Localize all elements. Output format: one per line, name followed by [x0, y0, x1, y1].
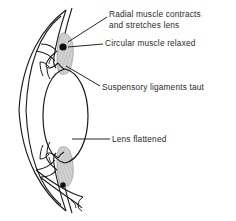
leader-circular: [68, 44, 103, 47]
leader-radial: [68, 17, 107, 42]
ciliary-muscle-top: [57, 33, 73, 74]
label-lens-flattened: Lens flattened: [112, 134, 166, 145]
label-radial-line1: Radial muscle contracts: [109, 9, 201, 20]
label-circular-muscle: Circular muscle relaxed: [105, 38, 196, 49]
eye-accommodation-figure: Radial muscle contracts and stretches le…: [0, 0, 236, 221]
eye-diagram-canvas: [0, 0, 236, 221]
label-radial-muscle: Radial muscle contracts and stretches le…: [109, 9, 201, 31]
label-suspensory-ligaments: Suspensory ligaments taut: [102, 82, 204, 93]
ciliary-muscle-bottom: [57, 147, 73, 188]
leader-suspensory: [66, 66, 100, 86]
ciliary-muscle-dot-top: [59, 43, 66, 50]
label-radial-line2: and stretches lens: [109, 20, 201, 31]
